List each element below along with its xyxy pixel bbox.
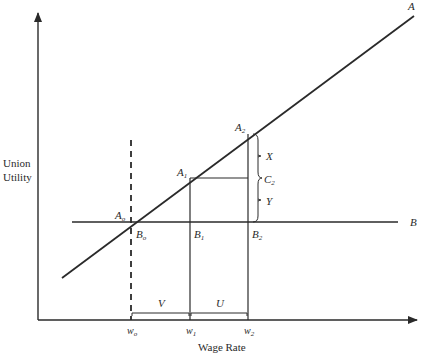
segment-c2-label: C2 [264,173,275,187]
svg-text:A2: A2 [234,121,246,135]
brace-c2 [253,134,262,222]
segment-y-label: Y [266,195,274,207]
line-b-label: B [410,216,417,228]
bracket-v [132,313,189,316]
svg-text:C2: C2 [264,173,275,187]
svg-text:Ao: Ao [114,209,126,223]
line-a [62,16,414,278]
svg-text:A1: A1 [176,166,187,180]
point-a2-label: A2 [234,121,246,135]
segment-v-label: V [158,297,166,309]
y-axis-label-line1: Union [3,157,31,169]
point-b1-label: B1 [194,228,204,242]
svg-text:B1: B1 [194,228,204,242]
tick-w2-label: w2 [244,325,255,338]
svg-text:wo: wo [127,325,138,338]
svg-text:w1: w1 [186,325,196,338]
segment-x-label: X [265,150,274,162]
svg-text:w2: w2 [244,325,255,338]
point-a0-label: Ao [114,209,126,223]
segment-u-label: U [216,297,225,309]
tick-w0-label: wo [127,325,138,338]
bracket-u [191,313,247,316]
tick-w1-label: w1 [186,325,196,338]
union-utility-diagram: Union Utility Wage Rate A B Ao A1 A2 Bo … [0,0,424,356]
line-a-label: A [407,0,415,12]
point-a1-label: A1 [176,166,187,180]
svg-text:B2: B2 [252,228,263,242]
y-axis-label-line2: Utility [3,171,32,183]
point-b2-label: B2 [252,228,263,242]
point-b0-label: Bo [136,228,147,242]
x-axis-label: Wage Rate [198,341,246,353]
svg-text:Bo: Bo [136,228,147,242]
